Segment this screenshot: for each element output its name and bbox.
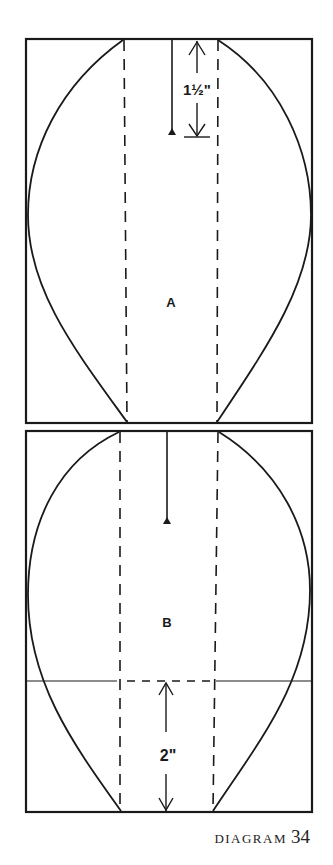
panel-a-dimension-label: 1½" (183, 81, 211, 98)
panel-b-teardrop-right (213, 432, 310, 811)
panel-b-label: B (162, 615, 171, 630)
figure-caption: DIAGRAM34 (214, 826, 310, 848)
panel-a (26, 39, 312, 423)
panel-a-pivot-marker (168, 128, 176, 135)
diagram-canvas: 1½" A 2" B (0, 0, 333, 865)
panel-b-pivot-marker (163, 517, 171, 524)
panel-a-frame (26, 39, 312, 423)
panel-a-dashed-right (217, 40, 218, 422)
caption-word: DIAGRAM (214, 831, 287, 846)
panel-b-teardrop-left (28, 432, 121, 811)
panel-a-label: A (166, 295, 176, 310)
panel-b-dimension-label: 2" (160, 747, 176, 764)
panel-a-dashed-left (124, 40, 127, 422)
panel-a-teardrop-right (217, 40, 311, 422)
panel-b-dashed-right (213, 432, 218, 811)
caption-number: 34 (291, 826, 310, 847)
panel-a-teardrop-left (28, 40, 127, 422)
